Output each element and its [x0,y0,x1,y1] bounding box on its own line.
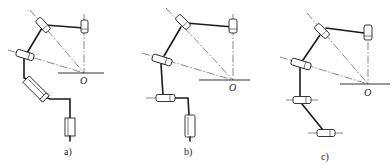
panel-label-b: b) [184,146,192,158]
link-2 [161,64,163,95]
revolute-joint-3 [156,95,175,102]
kinematic-diagrams: O a) [0,0,392,165]
link-base [45,25,84,28]
revolute-joint-3 [293,97,311,104]
revolute-joint-2 [290,58,311,71]
end-effector-block [185,115,195,141]
link-base [186,23,233,27]
link-1 [164,27,181,56]
origin-label: O [80,75,87,86]
panel-a: O a) [8,10,104,158]
panel-b: O b) [142,8,250,158]
prismatic-joint [23,76,49,102]
base-revolute-joint [364,25,372,40]
base-revolute-joint [81,20,88,33]
revolute-joint-4 [317,130,335,137]
revolute-joint-1 [175,14,191,30]
link-3 [45,97,70,118]
link-3 [302,104,323,130]
origin-label: O [229,82,236,93]
panel-c: O c) [280,13,390,163]
joint1-axis [307,13,368,84]
link-1 [27,28,42,53]
revolute-joint-1 [314,23,330,39]
panel-label-c: c) [321,151,329,163]
revolute-joint-2 [151,54,172,67]
link-base [326,28,364,33]
link-1 [303,35,320,60]
base-revolute-joint [229,19,237,33]
link-3 [175,98,189,115]
end-effector-block [65,118,75,141]
origin-label: O [364,87,371,98]
panel-label-a: a) [64,146,72,158]
revolute-joint-2 [15,49,34,61]
